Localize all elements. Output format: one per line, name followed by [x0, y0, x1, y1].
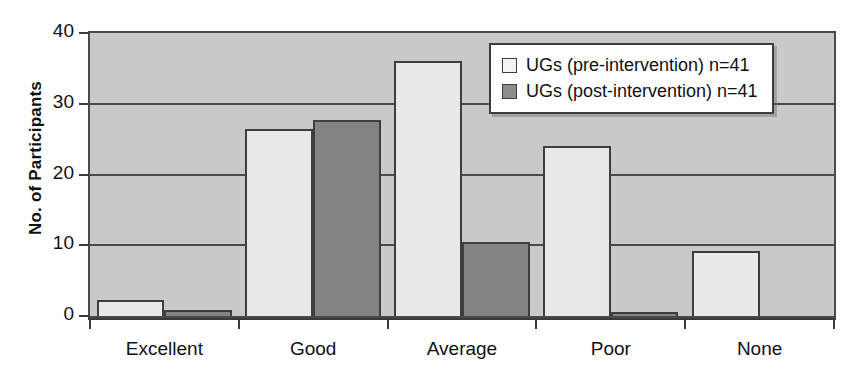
- legend-swatch-pre-icon: [502, 58, 517, 73]
- y-axis-tick-label: 10: [28, 232, 74, 254]
- y-axis-tick-mark: [79, 174, 89, 176]
- y-axis-tick-mark: [79, 103, 89, 105]
- y-axis-tick-mark: [79, 315, 89, 317]
- legend: UGs (pre-intervention) n=41 UGs (post-in…: [489, 43, 774, 114]
- y-axis-tick-mark: [79, 244, 89, 246]
- x-axis-label-none: None: [685, 338, 834, 360]
- x-axis-tick-mark: [684, 318, 686, 329]
- x-axis-tick-mark: [238, 318, 240, 329]
- bar-none-pre: [692, 251, 760, 316]
- y-axis-tick-label: 40: [28, 20, 74, 42]
- y-axis-tick-label: 30: [28, 91, 74, 113]
- bar-average-pre: [394, 61, 462, 316]
- bar-excellent-pre: [97, 300, 165, 316]
- legend-item-post: UGs (post-intervention) n=41: [502, 78, 758, 104]
- x-axis-line: [88, 318, 836, 320]
- legend-label-pre: UGs (pre-intervention) n=41: [526, 56, 750, 74]
- legend-label-post: UGs (post-intervention) n=41: [526, 82, 758, 100]
- x-axis-label-excellent: Excellent: [90, 338, 239, 360]
- bar-poor-post: [611, 312, 679, 316]
- legend-swatch-post-icon: [502, 84, 517, 99]
- bar-good-post: [313, 120, 381, 316]
- bar-good-pre: [245, 129, 313, 316]
- x-axis-label-good: Good: [239, 338, 388, 360]
- bar-poor-pre: [543, 146, 611, 316]
- y-axis-tick-label: 0: [28, 303, 74, 325]
- bar-average-post: [462, 242, 530, 316]
- x-axis-label-average: Average: [388, 338, 537, 360]
- bar-group: [239, 33, 388, 316]
- x-axis-tick-mark: [535, 318, 537, 329]
- x-axis-label-poor: Poor: [536, 338, 685, 360]
- x-axis-tick-mark: [89, 318, 91, 329]
- x-axis-tick-mark: [833, 318, 835, 329]
- y-axis-tick-mark: [79, 32, 89, 34]
- bar-chart: No. of Participants 010203040 ExcellentG…: [0, 0, 859, 389]
- bar-excellent-post: [164, 310, 232, 316]
- bar-group: [90, 33, 239, 316]
- x-axis-tick-mark: [387, 318, 389, 329]
- y-axis-tick-label: 20: [28, 162, 74, 184]
- legend-item-pre: UGs (pre-intervention) n=41: [502, 52, 758, 78]
